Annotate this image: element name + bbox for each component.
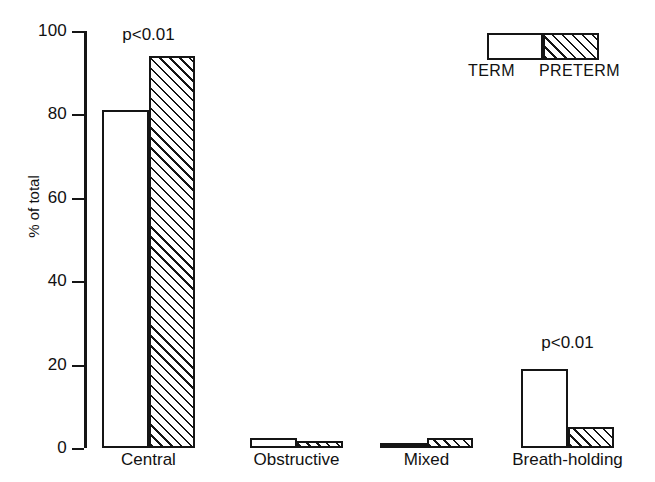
bar-obstructive-term	[250, 438, 297, 448]
legend-labels: TERM PRETERM	[468, 62, 620, 80]
y-tick-label-20: 20	[48, 355, 67, 375]
bar-breath-holding-term	[521, 369, 568, 448]
bar-central-preterm	[149, 56, 195, 448]
bar-chart-figure: 100 80 60 40 20 0 % of total p<0.01	[0, 0, 655, 482]
y-tick-100	[72, 31, 84, 33]
y-tick-20	[72, 365, 84, 367]
bars-breath-holding	[521, 31, 614, 448]
bar-mixed-term	[380, 443, 427, 448]
bar-group-mixed: Mixed	[380, 31, 473, 448]
bars-central	[102, 31, 195, 448]
legend-label-term: TERM	[468, 62, 515, 80]
y-tick-60	[72, 198, 84, 200]
bars-mixed	[380, 31, 473, 448]
y-tick-0	[72, 448, 84, 450]
bars-obstructive	[250, 31, 343, 448]
y-axis-title: % of total	[25, 152, 42, 262]
bar-group-breath-holding: p<0.01 Breath-holding	[521, 31, 614, 448]
bar-group-central: p<0.01 Central	[102, 31, 195, 448]
bar-central-term	[102, 110, 149, 448]
group-label-breath-holding: Breath-holding	[512, 450, 623, 470]
legend-swatch-preterm	[543, 33, 599, 60]
group-label-central: Central	[121, 450, 176, 470]
y-tick-label-80: 80	[48, 104, 67, 124]
y-tick-label-40: 40	[48, 271, 67, 291]
legend: TERM PRETERM	[487, 33, 600, 80]
bar-group-obstructive: Obstructive	[250, 31, 343, 448]
y-tick-40	[72, 281, 84, 283]
y-tick-label-60: 60	[48, 188, 67, 208]
legend-swatch-term	[487, 33, 543, 60]
group-label-obstructive: Obstructive	[254, 450, 340, 470]
bar-obstructive-preterm	[297, 441, 343, 448]
group-label-mixed: Mixed	[404, 450, 449, 470]
bar-mixed-preterm	[427, 438, 473, 448]
bar-breath-holding-preterm	[568, 427, 614, 448]
legend-label-preterm: PRETERM	[539, 62, 620, 80]
plot-area: p<0.01 Central Obstructive Mixed	[84, 31, 644, 448]
y-tick-label-0: 0	[57, 438, 67, 458]
legend-swatches	[487, 33, 600, 60]
y-tick-label-100: 100	[38, 21, 67, 41]
y-tick-80	[72, 114, 84, 116]
